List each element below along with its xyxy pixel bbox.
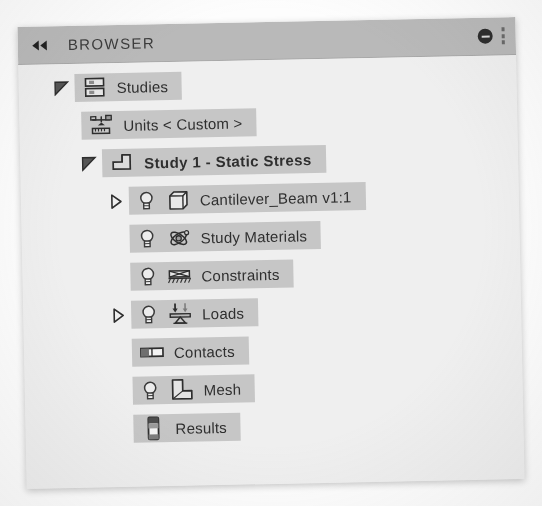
visibility-bulb-icon[interactable] [138,303,158,325]
units-scale-icon [88,113,114,138]
tree-row[interactable]: Contacts [24,330,523,370]
tree-row[interactable]: Study Materials [21,216,520,256]
atom-materials-icon [165,226,191,251]
tree-row[interactable]: Results [25,406,524,446]
tree-node-units[interactable]: Units < Custom > [81,108,257,140]
twisty-collapsed-icon[interactable] [103,189,129,214]
tree-node-label: Studies [116,78,168,96]
tree-row[interactable]: Mesh [24,368,523,408]
results-legend-icon [140,416,166,441]
tree-node-label: Constraints [201,265,279,284]
tree-node-label: Mesh [204,380,242,398]
page-title: BROWSER [68,34,156,53]
visibility-bulb-icon[interactable] [137,265,157,287]
browser-tree: Studies [18,55,524,489]
header-controls [478,27,508,45]
panel-skew-wrapper: BROWSER [17,17,524,489]
double-chevron-left-icon[interactable] [30,37,50,53]
twisty-expanded-icon[interactable] [76,151,102,176]
loads-arrow-icon [167,302,193,327]
mesh-lshape-icon [168,378,194,403]
tree-node-study-1[interactable]: Study 1 - Static Stress [102,145,326,177]
visibility-bulb-icon[interactable] [140,379,160,401]
twisty-expanded-icon[interactable] [48,76,74,101]
screenshot-root: BROWSER [0,0,542,506]
minus-circle-icon[interactable] [478,29,493,44]
contacts-pair-icon [139,340,165,365]
tree-node-results[interactable]: Results [133,413,241,443]
tree-node-constraints[interactable]: Constraints [130,260,294,291]
tree-node-label: Results [175,418,227,436]
tree-row[interactable]: Studies [18,64,517,104]
tree-node-label: Contacts [174,342,235,360]
tree-node-label: Loads [202,304,244,322]
tree-node-contacts[interactable]: Contacts [132,336,249,366]
tree-node-cantilever-beam[interactable]: Cantilever_Beam v1:1 [129,182,366,215]
resize-grip-icon[interactable] [502,27,506,44]
tree-row[interactable]: Loads [23,292,522,332]
twisty-collapsed-icon[interactable] [105,303,131,328]
tree-row[interactable]: Cantilever_Beam v1:1 [21,178,520,218]
tree-row[interactable]: Units < Custom > [19,102,518,142]
visibility-bulb-icon[interactable] [136,189,156,211]
tree-node-label: Units < Custom > [123,114,242,133]
browser-panel: BROWSER [17,17,524,489]
tree-node-mesh[interactable]: Mesh [132,374,255,404]
cube-component-icon [165,188,191,213]
tree-node-label: Cantilever_Beam v1:1 [200,188,352,208]
tree-node-study-materials[interactable]: Study Materials [129,221,321,253]
tree-row[interactable]: Study 1 - Static Stress [20,140,519,180]
static-stress-icon [109,151,135,176]
tree-row[interactable]: Constraints [22,254,521,294]
tree-node-studies[interactable]: Studies [74,72,182,102]
studies-stack-icon [81,75,107,100]
visibility-bulb-icon[interactable] [136,227,156,249]
tree-node-label: Study 1 - Static Stress [144,151,312,171]
constraint-support-icon [166,264,192,289]
tree-node-loads[interactable]: Loads [131,298,258,329]
tree-node-label: Study Materials [201,227,308,246]
